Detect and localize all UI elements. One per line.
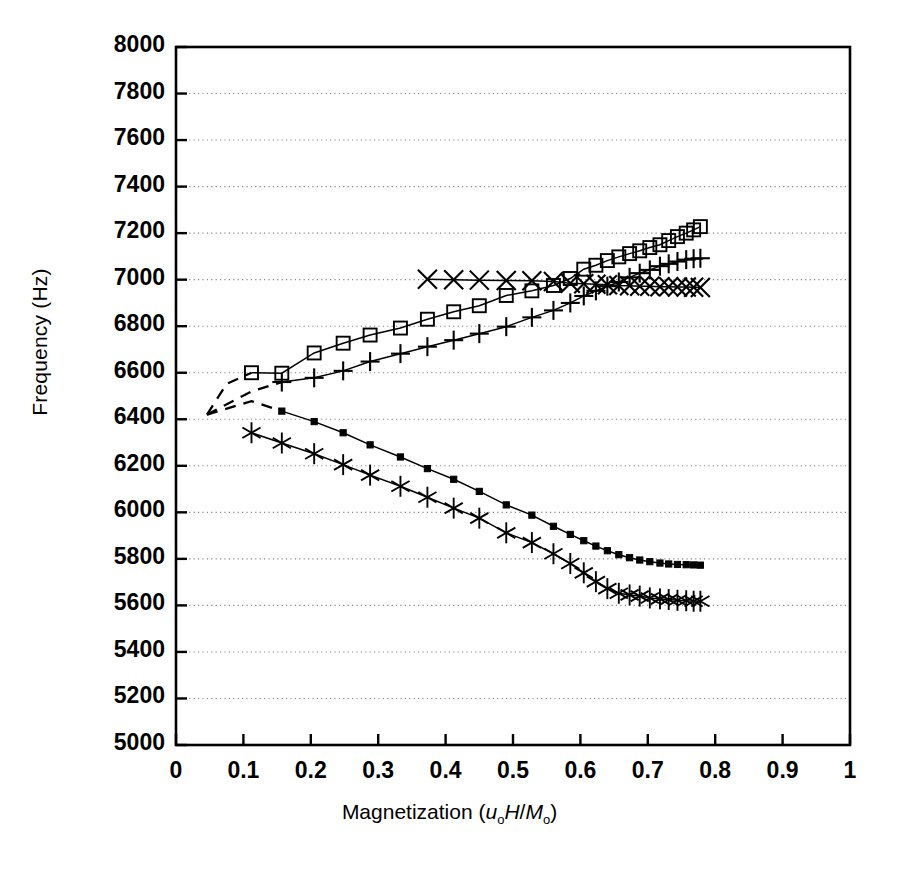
series-upper-branch-plus — [272, 249, 710, 392]
y-tick-label: 7200 — [60, 217, 165, 244]
x-tick-label: 0.5 — [483, 757, 543, 784]
series-upper-branch-open-square — [245, 220, 707, 380]
y-tick-label: 8000 — [60, 31, 165, 58]
y-tick-label: 5400 — [60, 636, 165, 663]
x-tick-label: 0.7 — [618, 757, 678, 784]
y-tick-label: 7400 — [60, 171, 165, 198]
y-tick-label: 5000 — [60, 729, 165, 756]
y-tick-label: 5600 — [60, 589, 165, 616]
series-lower-branch-filled-square — [279, 408, 704, 568]
y-tick-label: 6200 — [60, 450, 165, 477]
plot-frame — [176, 47, 850, 745]
y-tick-label: 6400 — [60, 403, 165, 430]
x-tick-label: 0.2 — [281, 757, 341, 784]
series-lower-branch-asterisk — [242, 422, 709, 611]
y-tick-label: 5200 — [60, 682, 165, 709]
branch-to-lower — [207, 401, 282, 414]
y-tick-label: 7000 — [60, 264, 165, 291]
y-tick-label: 6800 — [60, 310, 165, 337]
x-tick-label: 0.9 — [753, 757, 813, 784]
x-tick-label: 0.4 — [416, 757, 476, 784]
y-tick-label: 6000 — [60, 496, 165, 523]
x-tick-label: 1 — [820, 757, 880, 784]
x-tick-label: 0.1 — [213, 757, 273, 784]
x-tick-label: 0.6 — [550, 757, 610, 784]
x-tick-label: 0.3 — [348, 757, 408, 784]
x-tick-label: 0.8 — [685, 757, 745, 784]
x-tick-label: 0 — [146, 757, 206, 784]
y-tick-label: 5800 — [60, 543, 165, 570]
y-tick-label: 6600 — [60, 357, 165, 384]
data-series-group — [242, 220, 709, 612]
chart-figure: Frequency (Hz) Magnetization (uoH/Mo) 50… — [0, 0, 899, 884]
axis-ticks — [176, 47, 850, 745]
gridlines — [176, 94, 850, 699]
y-tick-label: 7800 — [60, 78, 165, 105]
y-tick-label: 7600 — [60, 124, 165, 151]
